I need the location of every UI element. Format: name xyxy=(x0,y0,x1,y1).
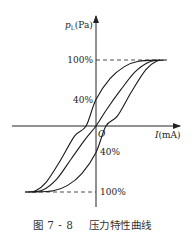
y-tick-label: 40% xyxy=(73,95,93,105)
pressure-characteristic-chart: pL(Pa) I(mA) O 100%40%40%100% 图 7 - 8 压力… xyxy=(0,0,194,235)
y-tick-label: 100% xyxy=(67,55,93,65)
y-tick-label: 40% xyxy=(100,147,120,157)
x-axis-label: I(mA) xyxy=(154,130,181,140)
figure-caption: 图 7 - 8 压力特性曲线 xyxy=(33,219,152,231)
y-axis-label-unit: (Pa) xyxy=(75,20,93,30)
y-tick-label: 100% xyxy=(100,187,126,197)
x-axis-label-unit: (mA) xyxy=(159,130,181,140)
origin-label: O xyxy=(98,129,106,139)
y-axis-label: pL(Pa) xyxy=(65,20,93,31)
